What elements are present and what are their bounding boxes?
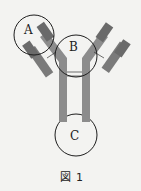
label-a: A <box>23 23 33 37</box>
caption-number: 1 <box>76 171 83 184</box>
caption-symbol: 図 <box>60 171 71 184</box>
label-c: C <box>70 129 79 143</box>
stem-right-end <box>82 114 90 122</box>
stem-left-end <box>59 114 67 122</box>
label-b: B <box>69 40 78 54</box>
disulfide-bond-right <box>94 52 104 58</box>
antibody-diagram: A B C 図 1 <box>0 0 141 191</box>
